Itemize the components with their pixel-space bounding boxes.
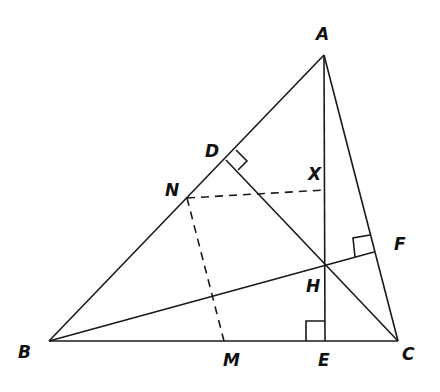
label-b: B: [18, 342, 31, 362]
label-f: F: [394, 234, 406, 254]
segment-ab: [49, 55, 324, 341]
label-d: D: [205, 141, 219, 161]
dashed-nm: [187, 198, 224, 341]
label-x: X: [307, 164, 322, 184]
segment-ca: [324, 55, 398, 341]
label-n: N: [165, 180, 179, 200]
altitude-ae: [324, 55, 325, 341]
label-h: H: [306, 276, 320, 296]
right-angle-d: [236, 150, 247, 170]
label-e: E: [318, 350, 330, 370]
right-angle-e: [306, 321, 325, 341]
label-c: C: [402, 344, 415, 364]
label-m: M: [223, 350, 240, 370]
label-a: A: [314, 24, 329, 44]
altitude-cd: [226, 160, 398, 341]
geometry-diagram: A B C D E F H M N X: [0, 0, 440, 392]
